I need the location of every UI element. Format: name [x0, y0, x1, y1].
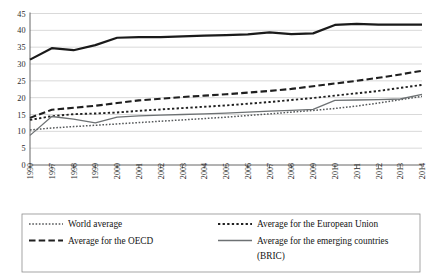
y-tick-label: 10	[17, 127, 25, 136]
y-tick-label: 20	[17, 94, 25, 103]
x-tick-label: 2007	[266, 163, 275, 179]
x-tick-label: 2000	[113, 163, 122, 179]
x-tick-label: 1999	[91, 163, 100, 179]
y-tick-label: 15	[17, 111, 25, 120]
x-tick-label: 1997	[48, 163, 57, 179]
y-tick-label: 45	[17, 10, 25, 19]
legend-label-0: World average	[68, 219, 122, 229]
y-axis-tick-labels: 051015202530354045	[17, 10, 25, 171]
x-tick-label: 2005	[222, 163, 231, 179]
x-tick-label: 2011	[353, 163, 362, 179]
x-tick-label: 2002	[157, 163, 166, 179]
y-tick-label: 30	[17, 60, 25, 69]
legend-label-1: Average for the European Union	[257, 219, 379, 229]
x-tick-label: 2012	[375, 163, 384, 179]
x-tick-label: 2004	[200, 163, 209, 179]
line-chart: 0510152025303540451990199719981999200020…	[0, 0, 432, 279]
y-tick-label: 0	[21, 161, 25, 170]
x-tick-label: 2003	[179, 163, 188, 179]
chart-canvas: 0510152025303540451990199719981999200020…	[0, 0, 432, 279]
y-tick-label: 40	[17, 26, 25, 35]
legend: World averageAverage for the European Un…	[22, 214, 420, 272]
legend-label-4: (BRIC)	[257, 251, 285, 262]
x-tick-label: 2009	[309, 163, 318, 179]
legend-label-3: Average for the emerging countries	[257, 236, 389, 246]
series-group	[30, 24, 422, 135]
x-tick-label: 2006	[244, 163, 253, 179]
y-tick-label: 5	[21, 144, 25, 153]
legend-label-2: Average for the OECD	[68, 236, 154, 246]
series-line-2	[30, 24, 422, 60]
x-tick-label: 1990	[26, 163, 35, 179]
y-tick-label: 25	[17, 77, 25, 86]
series-line-1	[30, 71, 422, 118]
x-tick-label: 2010	[331, 163, 340, 179]
x-tick-label: 2014	[418, 163, 427, 179]
x-tick-label: 1998	[70, 163, 79, 179]
y-tick-label: 35	[17, 43, 25, 52]
x-tick-label: 2001	[135, 163, 144, 179]
x-tick-label: 2013	[396, 163, 405, 179]
x-tick-label: 2008	[287, 163, 296, 179]
